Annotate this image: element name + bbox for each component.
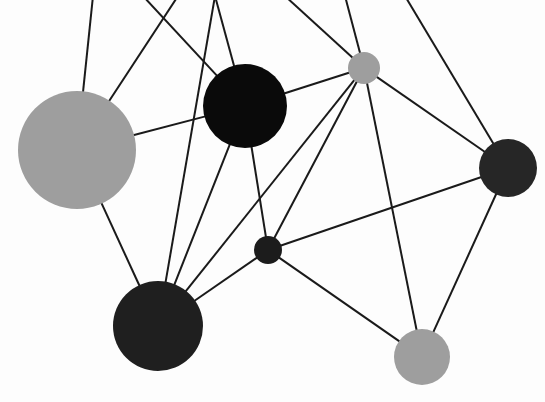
network-graph-canvas [0, 0, 545, 402]
black-node[interactable] [203, 64, 287, 148]
small-gray-node[interactable] [348, 52, 380, 84]
large-gray-node[interactable] [18, 91, 136, 209]
center-small-dark-node[interactable] [254, 236, 282, 264]
bottom-left-dark-node[interactable] [113, 281, 203, 371]
right-dark-node[interactable] [479, 139, 537, 197]
bottom-right-gray-node[interactable] [394, 329, 450, 385]
graph-svg [0, 0, 545, 402]
